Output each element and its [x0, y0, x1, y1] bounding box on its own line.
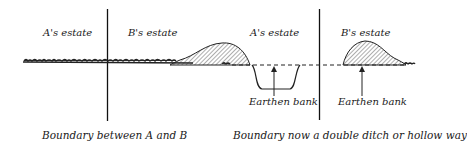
caption-left: Boundary between A and B	[42, 129, 187, 141]
left-earthen-bank	[170, 43, 250, 65]
label-b-estate-right: B's estate	[341, 27, 390, 38]
right-earthen-bank	[343, 41, 406, 65]
label-a-estate-left: A's estate	[43, 27, 92, 38]
label-earthen-bank-left: Earthen bank	[249, 96, 318, 107]
hollow-way-ditch	[252, 65, 300, 89]
arrow-left-bank	[271, 66, 277, 96]
arrow-right-bank	[359, 66, 365, 96]
label-a-estate-right: A's estate	[250, 27, 299, 38]
caption-right: Boundary now a double ditch or hollow wa…	[233, 129, 467, 141]
label-earthen-bank-right: Earthen bank	[338, 96, 407, 107]
label-b-estate-left: B's estate	[128, 27, 177, 38]
